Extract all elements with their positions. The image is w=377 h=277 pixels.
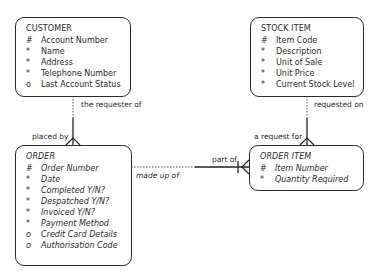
attribute-name: Address <box>41 57 73 68</box>
attribute-name: Credit Card Details <box>41 229 117 240</box>
entity-title: STOCK ITEM <box>261 24 311 33</box>
entity-customer[interactable]: CUSTOMER #Account Number *Name *Address … <box>15 17 131 97</box>
attribute-row: oCredit Card Details <box>26 229 118 240</box>
entity-title: ORDER ITEM <box>260 152 311 161</box>
attribute-row: *Name <box>26 46 121 57</box>
relationship-label-requester-of: the requester of <box>81 100 142 109</box>
attribute-name: Description <box>276 46 322 57</box>
mandatory-mark: * <box>261 68 276 79</box>
attribute-row: *Telephone Number <box>26 68 121 79</box>
attribute-name: Unit Price <box>276 68 314 79</box>
attribute-row: *Description <box>261 46 354 57</box>
attribute-row: *Date <box>26 174 118 185</box>
attribute-row: oLast Account Status <box>26 79 121 90</box>
identifier-mark: # <box>260 163 275 174</box>
attribute-name: Last Account Status <box>41 79 121 90</box>
attribute-row: *Quantity Required <box>260 174 348 185</box>
attribute-name: Order Number <box>41 163 99 174</box>
entity-title: CUSTOMER <box>26 24 72 33</box>
attribute-name: Item Number <box>275 163 328 174</box>
attribute-list: #Item Number *Quantity Required <box>260 163 348 185</box>
mandatory-mark: * <box>26 68 41 79</box>
identifier-mark: # <box>261 35 276 46</box>
mandatory-mark: * <box>26 46 41 57</box>
attribute-list: #Item Code *Description *Unit of Sale *U… <box>261 35 354 90</box>
attribute-name: Completed Y/N? <box>41 185 105 196</box>
attribute-name: Invoiced Y/N? <box>41 207 95 218</box>
attribute-name: Despatched Y/N? <box>41 196 109 207</box>
attribute-name: Name <box>41 46 65 57</box>
mandatory-mark: * <box>26 207 41 218</box>
entity-stock-item[interactable]: STOCK ITEM #Item Code *Description *Unit… <box>250 17 364 97</box>
mandatory-mark: * <box>26 196 41 207</box>
mandatory-mark: * <box>26 218 41 229</box>
attribute-row: *Despatched Y/N? <box>26 196 118 207</box>
entity-order-item[interactable]: ORDER ITEM #Item Number *Quantity Requir… <box>249 145 364 191</box>
attribute-name: Quantity Required <box>275 174 348 185</box>
relationship-label-made-up-of: made up of <box>136 171 179 180</box>
attribute-row: #Account Number <box>26 35 121 46</box>
attribute-row: *Unit Price <box>261 68 354 79</box>
mandatory-mark: * <box>26 57 41 68</box>
attribute-row: #Item Number <box>260 163 348 174</box>
relationship-label-part-of: part of <box>212 155 237 164</box>
attribute-row: *Invoiced Y/N? <box>26 207 118 218</box>
identifier-mark: # <box>26 35 41 46</box>
attribute-row: oAuthorisation Code <box>26 240 118 251</box>
optional-mark: o <box>26 229 41 240</box>
mandatory-mark: * <box>261 79 276 90</box>
identifier-mark: # <box>26 163 41 174</box>
attribute-name: Authorisation Code <box>41 240 118 251</box>
mandatory-mark: * <box>261 57 276 68</box>
entity-title: ORDER <box>26 152 55 161</box>
mandatory-mark: * <box>26 185 41 196</box>
mandatory-mark: * <box>26 174 41 185</box>
relationship-label-requested-on: requested on <box>314 100 364 109</box>
mandatory-mark: * <box>260 174 275 185</box>
attribute-row: #Order Number <box>26 163 118 174</box>
entity-order[interactable]: ORDER #Order Number *Date *Completed Y/N… <box>15 145 132 266</box>
attribute-row: #Item Code <box>261 35 354 46</box>
attribute-row: *Current Stock Level <box>261 79 354 90</box>
attribute-name: Current Stock Level <box>276 79 354 90</box>
relationship-label-placed-by: placed by <box>32 132 69 141</box>
attribute-name: Account Number <box>41 35 108 46</box>
attribute-row: *Address <box>26 57 121 68</box>
mandatory-mark: * <box>261 46 276 57</box>
attribute-name: Date <box>41 174 60 185</box>
attribute-name: Telephone Number <box>41 68 116 79</box>
attribute-row: *Unit of Sale <box>261 57 354 68</box>
attribute-list: #Account Number *Name *Address *Telephon… <box>26 35 121 90</box>
attribute-list: #Order Number *Date *Completed Y/N? *Des… <box>26 163 118 251</box>
attribute-name: Unit of Sale <box>276 57 322 68</box>
attribute-row: *Payment Method <box>26 218 118 229</box>
attribute-row: *Completed Y/N? <box>26 185 118 196</box>
optional-mark: o <box>26 240 41 251</box>
attribute-name: Payment Method <box>41 218 109 229</box>
relationship-label-a-request-for: a request for <box>254 132 302 141</box>
optional-mark: o <box>26 79 41 90</box>
attribute-name: Item Code <box>276 35 317 46</box>
